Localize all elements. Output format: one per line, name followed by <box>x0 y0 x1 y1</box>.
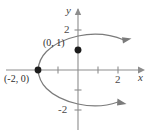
vertex-point-dot <box>35 67 42 74</box>
plot-canvas <box>0 0 149 135</box>
vertex-label: (-2, 0) <box>4 74 29 84</box>
x-axis-label: x <box>138 72 143 83</box>
y-intercept-label: (0, 1) <box>43 38 65 48</box>
y-tick-label-2: 2 <box>64 24 70 35</box>
x-tick-label-2: 2 <box>115 74 121 85</box>
y-axis-label: y <box>66 5 71 16</box>
upper-branch-arrowhead-icon <box>122 37 132 43</box>
lower-branch-arrowhead-icon <box>117 99 127 106</box>
y-intercept-point-dot <box>75 47 82 54</box>
y-axis-arrowhead-icon <box>75 8 81 15</box>
parabola-figure: y x 2 -2 2 (0, 1) (-2, 0) <box>0 0 149 135</box>
y-tick-label-minus-2: -2 <box>58 104 67 115</box>
